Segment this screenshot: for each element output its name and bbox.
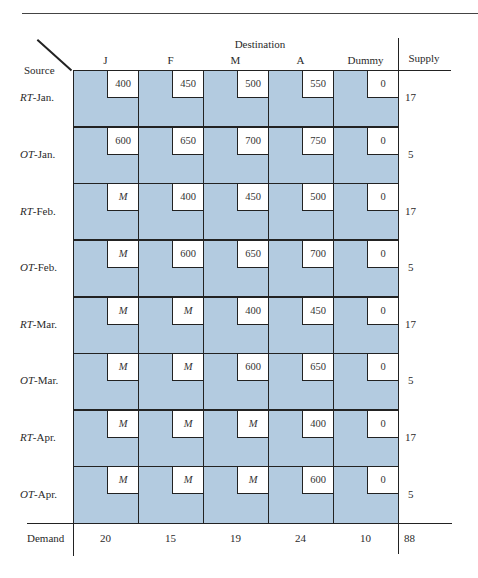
column-divider (138, 70, 140, 523)
table-cell: M (138, 297, 203, 354)
cost-box: 600 (302, 466, 333, 494)
source-header: Source (24, 64, 55, 76)
table-cell: 0 (333, 297, 398, 354)
table-cell: M (138, 466, 203, 523)
cost-box: M (172, 410, 203, 438)
table-cell: 700 (268, 240, 333, 297)
table-cell: 600 (73, 127, 138, 184)
cost-box: 400 (302, 410, 333, 438)
table-cell: 500 (203, 70, 268, 127)
row-divider (73, 126, 398, 128)
table-cell: 600 (138, 240, 203, 297)
row-label: RT-Feb. (20, 205, 70, 217)
table-cell: 650 (268, 353, 333, 410)
table-cell: M (138, 353, 203, 410)
table-cell: 400 (268, 410, 333, 467)
table-cell: 650 (138, 127, 203, 184)
cost-box: 700 (237, 127, 268, 155)
cost-box: M (172, 297, 203, 325)
table-cell: 0 (333, 410, 398, 467)
row-divider (73, 409, 398, 411)
row-label: RT-Mar. (20, 318, 70, 330)
table-cell: M (203, 466, 268, 523)
cost-box: M (107, 297, 138, 325)
table-cell: M (73, 410, 138, 467)
cost-box: M (237, 410, 268, 438)
cost-box: 550 (302, 70, 333, 98)
cost-box: M (237, 466, 268, 494)
demand-value: 24 (268, 532, 333, 544)
destination-title: Destination (210, 38, 310, 50)
row-label-suffix: -Feb. (34, 261, 57, 273)
row-label: RT-Apr. (20, 431, 70, 443)
column-divider (398, 38, 400, 554)
table-cell: 500 (268, 183, 333, 240)
cost-box: 0 (367, 70, 398, 98)
cost-box: 600 (237, 353, 268, 381)
row-label-prefix: RT (20, 431, 33, 443)
row-divider (73, 466, 398, 468)
supply-value: 5 (408, 261, 438, 273)
cost-box: 0 (367, 297, 398, 325)
table-cell: 0 (333, 353, 398, 410)
cost-box: 400 (237, 297, 268, 325)
cost-box: 0 (367, 466, 398, 494)
cost-box: 600 (107, 127, 138, 155)
row-label-prefix: RT (20, 205, 33, 217)
cost-box: 0 (367, 127, 398, 155)
table-cell: 450 (138, 70, 203, 127)
row-label-prefix: OT (20, 148, 34, 160)
column-divider (268, 70, 270, 523)
table-cell: M (73, 240, 138, 297)
row-label-suffix: -Mar. (34, 374, 58, 386)
cost-box: 650 (302, 353, 333, 381)
supply-value: 17 (405, 205, 435, 217)
cost-box: M (172, 466, 203, 494)
row-label-prefix: RT (20, 318, 33, 330)
table-cell: 700 (203, 127, 268, 184)
column-header-m: M (203, 54, 268, 66)
table-cell: 0 (333, 70, 398, 127)
table-cell: 450 (203, 183, 268, 240)
column-header-dummy: Dummy (333, 54, 398, 66)
row-label: OT-Jan. (20, 148, 70, 160)
cost-box: 400 (107, 70, 138, 98)
row-divider (73, 239, 398, 241)
supply-value: 17 (405, 431, 435, 443)
table-cell: 750 (268, 127, 333, 184)
column-header-f: F (138, 54, 203, 66)
demand-value: 20 (73, 532, 138, 544)
row-label-suffix: -Jan. (33, 91, 54, 103)
demand-value: 15 (138, 532, 203, 544)
table-cell: M (203, 410, 268, 467)
cost-box: 0 (367, 183, 398, 211)
cost-box: M (107, 353, 138, 381)
demand-value: 19 (203, 532, 268, 544)
cost-box: 400 (172, 183, 203, 211)
row-label-suffix: -Feb. (33, 205, 56, 217)
table-cell: M (138, 410, 203, 467)
cost-box: 450 (237, 183, 268, 211)
table-cell: 0 (333, 127, 398, 184)
cost-box: M (172, 353, 203, 381)
row-label: OT-Feb. (20, 261, 70, 273)
table-cell: 0 (333, 466, 398, 523)
cost-box: M (107, 466, 138, 494)
cost-box: 750 (302, 127, 333, 155)
cost-box: 700 (302, 240, 333, 268)
table-cell: 400 (73, 70, 138, 127)
table-cell: 0 (333, 183, 398, 240)
supply-value: 17 (405, 91, 435, 103)
supply-value: 5 (408, 488, 438, 500)
column-divider (203, 70, 205, 523)
table-cell: M (73, 183, 138, 240)
column-divider (73, 70, 75, 556)
supply-value: 17 (405, 318, 435, 330)
cost-box: 650 (237, 240, 268, 268)
row-label: OT-Apr. (20, 488, 70, 500)
table-cell: 400 (203, 297, 268, 354)
row-label-suffix: -Jan. (34, 148, 55, 160)
supply-value: 5 (408, 374, 438, 386)
cost-box: 450 (302, 297, 333, 325)
table-cell: M (73, 466, 138, 523)
